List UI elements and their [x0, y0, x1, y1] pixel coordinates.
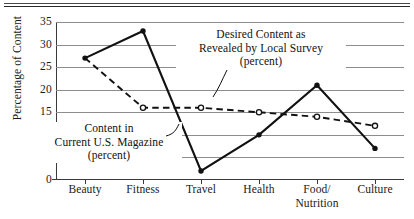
data-point-marker — [198, 105, 203, 110]
data-point-marker — [372, 123, 377, 128]
top-rule-outer — [4, 3, 410, 4]
y-tick-label: 20 — [26, 84, 52, 96]
y-tick-label: 25 — [26, 61, 52, 73]
data-point-marker — [314, 114, 319, 119]
data-point-marker — [140, 105, 145, 110]
y-tick-label: 35 — [26, 16, 52, 28]
y-tick-label: 15 — [26, 106, 52, 118]
data-point-marker — [314, 83, 319, 88]
y-axis-title-host: Percentage of Content — [0, 0, 20, 219]
annotation-desired-content: Desired Content asRevealed by Local Surv… — [176, 28, 346, 69]
y-tick-label: 30 — [26, 39, 52, 51]
data-point-marker — [256, 132, 261, 137]
data-point-marker — [198, 168, 203, 173]
data-point-marker — [256, 110, 261, 115]
data-point-marker — [372, 146, 377, 151]
x-tick-label: Culture — [330, 183, 414, 197]
chart-figure: Percentage of Content 05101520253035 Bea… — [0, 0, 414, 219]
top-rule-inner — [4, 6, 410, 7]
x-axis-tick-labels: BeautyFitnessTravelHealthFood/NutritionC… — [56, 183, 404, 219]
annotation-current-magazine: Content inCurrent U.S. Magazine(percent) — [36, 122, 182, 163]
data-point-marker — [140, 28, 145, 33]
